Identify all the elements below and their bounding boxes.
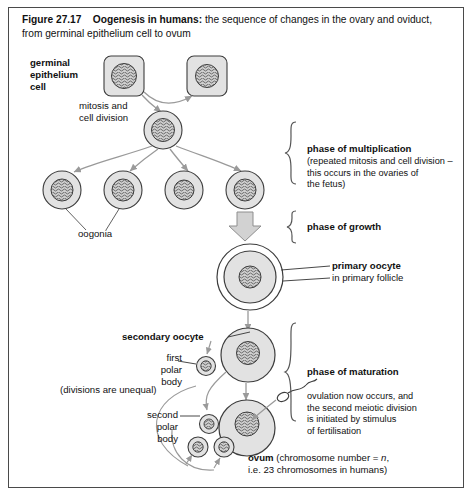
label-phase-of-multiplication-detail: (repeated mitosis and cell division – th… bbox=[307, 156, 457, 191]
arrow-loop-up-2 bbox=[214, 458, 220, 468]
label-primary-oocyte-sub: in primary follicle bbox=[332, 272, 403, 284]
arrow-to-first-polar-body bbox=[207, 341, 211, 354]
label-phase-of-maturation-detail: ovulation now occurs, and the second mei… bbox=[307, 391, 457, 437]
polar-body-a bbox=[200, 415, 219, 434]
arrow-to-oogonium-4 bbox=[176, 146, 241, 171]
oogonium-1 bbox=[43, 171, 81, 209]
label-secondary-oocyte: secondary oocyte bbox=[122, 331, 204, 343]
arrow-to-oogonium-3 bbox=[170, 149, 188, 171]
oogonium-2 bbox=[104, 171, 142, 209]
germinal-epithelium-cell-2 bbox=[187, 56, 227, 96]
label-divisions-are-unequal: (divisions are unequal) bbox=[60, 384, 157, 396]
arrow-to-second-polar-body bbox=[206, 372, 226, 410]
arrow-loop-up-1 bbox=[186, 455, 192, 464]
label-mitosis-and-cell-division: mitosis and cell division bbox=[79, 100, 159, 124]
brace-growth bbox=[287, 211, 296, 243]
polar-body-b bbox=[188, 437, 208, 457]
ovum-detail-a: (chromosome number = bbox=[276, 452, 381, 463]
secondary-oocyte bbox=[221, 328, 275, 382]
label-primary-oocyte: primary oocyte bbox=[332, 260, 401, 272]
label-first-polar-body: first polar body bbox=[152, 352, 182, 388]
ovum-detail-line2: i.e. 23 chromosomes in humans) bbox=[248, 464, 448, 476]
block-arrow-growth bbox=[229, 212, 261, 241]
label-germinal-epithelium-cell: germinal epithelium cell bbox=[30, 57, 100, 93]
first-polar-body bbox=[197, 357, 216, 376]
ovum-detail-b: , bbox=[386, 452, 389, 463]
oogonium-3 bbox=[165, 171, 203, 209]
leader-oogonia-2 bbox=[106, 209, 119, 230]
label-oogonia: oogonia bbox=[78, 228, 112, 240]
leader-primary-follicle bbox=[283, 278, 330, 281]
brace-maturation bbox=[285, 323, 296, 421]
figure-container: Figure 27.17 Oogenesis in humans: the se… bbox=[0, 0, 473, 496]
label-phase-of-multiplication: phase of multiplication bbox=[307, 143, 411, 155]
label-phase-of-maturation: phase of maturation bbox=[307, 366, 399, 378]
label-phase-of-growth: phase of growth bbox=[307, 221, 381, 233]
leader-oogonia-1 bbox=[66, 209, 86, 230]
brace-multiplication bbox=[285, 122, 296, 184]
germinal-epithelium-cell-1 bbox=[104, 56, 144, 96]
ovum-term: ovum bbox=[248, 452, 274, 463]
primary-oocyte-follicle bbox=[217, 244, 283, 310]
oogonium-4 bbox=[226, 171, 264, 209]
label-ovum: ovum (chromosome number = n, i.e. 23 chr… bbox=[248, 452, 448, 476]
leader-primary-oocyte bbox=[281, 266, 330, 270]
polar-body-c bbox=[214, 437, 234, 457]
arrow-to-oogonium-1 bbox=[74, 146, 152, 172]
label-second-polar-body: second polar body bbox=[126, 409, 178, 445]
